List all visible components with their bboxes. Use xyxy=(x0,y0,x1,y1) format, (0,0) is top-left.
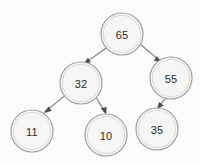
edge-32-to-10 xyxy=(96,97,106,114)
edge-65-to-55 xyxy=(141,45,162,63)
node-11-label: 11 xyxy=(26,126,38,138)
edge-65-to-32 xyxy=(83,48,106,64)
node-55-label: 55 xyxy=(165,73,178,85)
node-65-label: 65 xyxy=(116,29,129,41)
binary-tree-diagram: 65 32 55 11 10 xyxy=(0,0,200,163)
tree-node-11[interactable]: 11 xyxy=(11,110,53,152)
node-layer: 65 32 55 11 10 xyxy=(11,13,192,156)
edge-55-to-35 xyxy=(157,98,166,109)
tree-node-55[interactable]: 55 xyxy=(150,57,192,99)
node-10-label: 10 xyxy=(100,130,113,142)
tree-node-10[interactable]: 10 xyxy=(85,114,127,156)
tree-node-65[interactable]: 65 xyxy=(101,13,143,55)
edge-32-to-10-arrowhead xyxy=(101,107,106,114)
diagram-canvas: 65 32 55 11 10 xyxy=(0,0,200,163)
node-32-label: 32 xyxy=(75,78,88,90)
tree-node-32[interactable]: 32 xyxy=(60,62,102,104)
node-35-label: 35 xyxy=(151,124,164,136)
tree-node-35[interactable]: 35 xyxy=(136,108,178,150)
edge-32-to-11 xyxy=(44,96,65,113)
